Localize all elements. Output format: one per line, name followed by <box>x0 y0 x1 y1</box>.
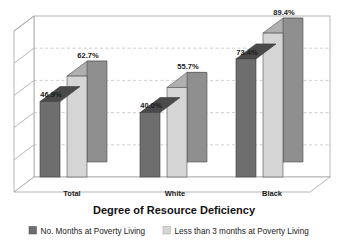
value-label-black-dark: 73.4% <box>236 48 258 57</box>
bar-black-less-than-3-months <box>263 18 303 177</box>
category-label-total: Total <box>63 189 80 198</box>
bar-front-face <box>263 33 283 177</box>
legend-label-less-than-3-months: Less than 3 months at Poverty Living <box>175 227 310 236</box>
left-wall <box>14 16 34 192</box>
bar-side-face <box>283 18 303 162</box>
bar-front-face <box>236 59 256 177</box>
bar-side-face <box>87 61 107 162</box>
bar-total-less-than-3-months <box>67 61 107 177</box>
bar-white-less-than-3-months <box>167 72 207 177</box>
chart-container: 46.9% 62.7% 40.0% 55.7% 73.4% 89.4% Tota… <box>0 0 349 243</box>
legend-item-less-than-3-months[interactable]: Less than 3 months at Poverty Living <box>163 227 309 236</box>
value-label-white-light: 55.7% <box>177 62 199 71</box>
value-label-total-dark: 46.9% <box>40 90 62 99</box>
bar-chart-3d: 46.9% 62.7% 40.0% 55.7% 73.4% 89.4% Tota… <box>0 0 349 243</box>
legend-item-no-months[interactable]: No. Months at Poverty Living <box>29 227 146 236</box>
value-label-total-light: 62.7% <box>77 51 99 60</box>
value-label-white-dark: 40.0% <box>140 101 162 110</box>
x-axis-title: Degree of Resource Deficiency <box>93 204 256 216</box>
legend-label-no-months: No. Months at Poverty Living <box>41 227 146 236</box>
bar-front-face <box>40 102 60 177</box>
value-label-black-light: 89.4% <box>273 8 295 17</box>
bar-side-face <box>187 72 207 162</box>
bar-front-face <box>140 113 160 177</box>
legend-swatch-icon <box>163 227 171 235</box>
legend: No. Months at Poverty Living Less than 3… <box>29 227 309 236</box>
category-label-white: White <box>165 189 185 198</box>
legend-swatch-icon <box>29 227 37 235</box>
category-label-black: Black <box>262 189 283 198</box>
